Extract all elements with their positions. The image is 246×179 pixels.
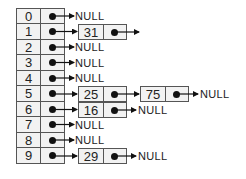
null-label-2: NULL xyxy=(75,41,104,53)
null-label-8: NULL xyxy=(75,134,104,146)
null-label-29: NULL xyxy=(138,150,167,162)
null-label-3: NULL xyxy=(75,57,104,69)
null-label-75: NULL xyxy=(200,88,229,100)
null-label-16: NULL xyxy=(138,104,167,116)
null-label-4: NULL xyxy=(75,72,104,84)
null-label-0: NULL xyxy=(75,10,104,22)
null-label-7: NULL xyxy=(75,119,104,131)
hash-table-diagram: 0 1 2 3 4 5 6 7 8 9 31 25 75 16 29 xyxy=(0,0,246,179)
